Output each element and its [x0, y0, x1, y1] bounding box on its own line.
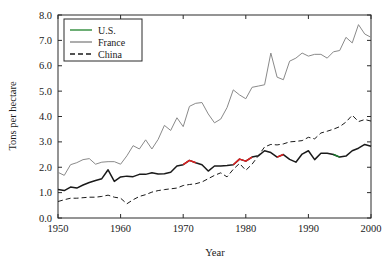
- legend-label-france: France: [98, 37, 126, 48]
- highlight-segment: [183, 160, 196, 164]
- x-tick-label: 1990: [298, 223, 319, 234]
- x-tick-label: 1980: [235, 223, 256, 234]
- x-tick-label: 1950: [48, 223, 69, 234]
- y-tick-label: 1.0: [39, 187, 52, 198]
- x-tick-label: 1960: [110, 223, 131, 234]
- y-tick-label: 5.0: [39, 86, 52, 97]
- y-tick-label: 0.0: [39, 213, 52, 224]
- highlight-segment: [233, 157, 252, 165]
- x-axis-title: Year: [205, 247, 225, 258]
- y-tick-label: 7.0: [39, 35, 52, 46]
- series-line-china: [58, 115, 371, 204]
- y-tick-label: 2.0: [39, 162, 52, 173]
- chart-legend[interactable]: U.S.FranceChina: [64, 19, 142, 61]
- x-tick-label: 1970: [173, 223, 194, 234]
- y-axis-title: Tons per hectare: [7, 81, 18, 151]
- highlight-segments: [183, 155, 340, 165]
- legend-label-china: China: [98, 49, 122, 60]
- line-chart: 195019601970198019902000 0.01.02.03.04.0…: [0, 0, 389, 264]
- y-tick-label: 3.0: [39, 136, 52, 147]
- series-line-us: [58, 144, 371, 190]
- y-tick-label: 8.0: [39, 10, 52, 21]
- y-tick-label: 6.0: [39, 60, 52, 71]
- chart-figure: 195019601970198019902000 0.01.02.03.04.0…: [0, 0, 389, 264]
- y-tick-label: 4.0: [39, 111, 52, 122]
- legend-label-us: U.S.: [98, 25, 116, 36]
- highlight-segment: [333, 155, 339, 158]
- highlight-segment: [277, 155, 283, 158]
- x-tick-label: 2000: [361, 223, 382, 234]
